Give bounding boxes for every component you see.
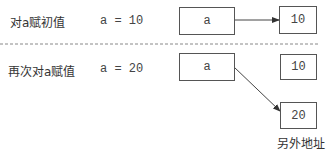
- new-address-caption: 另外地址: [277, 134, 325, 150]
- arrow-a-to-20: [234, 67, 280, 111]
- row1-variable-box: a: [179, 7, 235, 35]
- assignment-diagram: 对a赋初值 a = 10 a 10 再次对a赋值 a = 20 a 10 20 …: [0, 0, 326, 150]
- row1-label: 对a赋初值: [10, 13, 65, 30]
- row2-variable-box: a: [179, 53, 235, 81]
- row1-code: a = 10: [100, 14, 143, 28]
- row2-new-value-box: 20: [280, 102, 317, 129]
- row1-value-box: 10: [279, 6, 317, 34]
- row2-label: 再次对a赋值: [8, 62, 75, 79]
- row2-old-value-box: 10: [280, 54, 317, 80]
- row2-code: a = 20: [100, 62, 143, 76]
